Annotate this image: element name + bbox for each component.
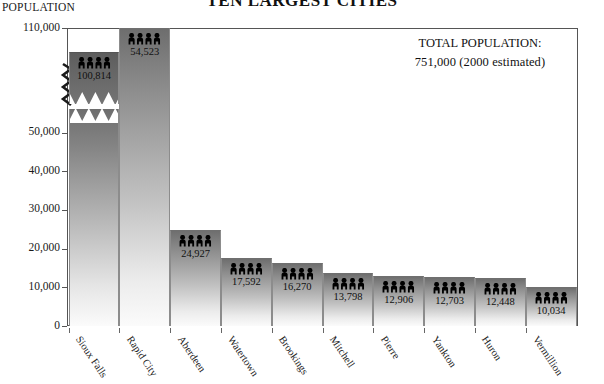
y-axis-tick-mark [62, 28, 67, 29]
people-icon [273, 268, 322, 280]
x-axis-label-huron: Huron [480, 334, 504, 362]
bar-huron[interactable]: 12,448 [475, 278, 526, 326]
people-icon [70, 57, 119, 69]
people-icon [374, 281, 423, 293]
chart-title: TEN LARGEST CITIES [0, 0, 604, 11]
y-axis-tick-mark [62, 133, 67, 134]
people-icon [120, 33, 169, 45]
x-axis-tick-mark [373, 328, 374, 333]
bar-sioux-falls[interactable] [69, 109, 120, 327]
people-icon [425, 282, 474, 294]
x-axis-tick-mark [526, 328, 527, 333]
x-axis-label-aberdeen: Aberdeen [175, 334, 207, 374]
x-axis-label-rapid-city: Rapid City [125, 334, 160, 378]
y-axis-tick-label: 50,000 [0, 125, 60, 137]
y-axis-tick-label: 110,000 [0, 21, 60, 33]
axis-break-zigzag-icon [69, 109, 120, 121]
callout-line-2: 751,000 (2000 estimated) [374, 53, 586, 72]
axis-break-zigzag-icon [69, 92, 120, 104]
chart-root: TEN LARGEST CITIES POPULATION 110,00050,… [0, 0, 604, 384]
bar-value-label: 17,592 [222, 276, 271, 287]
x-axis-tick-mark [119, 328, 120, 333]
x-axis-label-layer: Sioux FallsRapid CityAberdeenWatertownBr… [69, 328, 577, 384]
bar-mitchell[interactable]: 13,798 [323, 273, 374, 326]
x-axis-tick-mark [424, 328, 425, 333]
bar-value-label: 13,798 [324, 291, 373, 302]
bar-rapid-city[interactable]: 54,523 [119, 28, 170, 326]
people-icon [171, 235, 220, 247]
bar-value-label: 12,703 [425, 295, 474, 306]
callout-line-1: TOTAL POPULATION: [374, 34, 586, 53]
bar-pierre[interactable]: 12,906 [373, 276, 424, 326]
y-axis-tick-mark [62, 249, 67, 250]
bar-sioux-falls-top-segment[interactable]: 100,814 [69, 52, 120, 104]
y-axis-tick-mark [62, 171, 67, 172]
bar-value-label: 16,270 [273, 281, 322, 292]
x-axis-tick-mark [221, 328, 222, 333]
y-axis-tick-label: 0 [0, 319, 60, 331]
bar-value-label: 54,523 [120, 46, 169, 57]
bar-aberdeen[interactable]: 24,927 [170, 230, 221, 326]
total-population-callout: TOTAL POPULATION: 751,000 (2000 estimate… [374, 34, 586, 73]
people-icon [527, 292, 576, 304]
y-axis-tick-label: 40,000 [0, 164, 60, 176]
people-icon [476, 283, 525, 295]
x-axis-tick-mark [272, 328, 273, 333]
x-axis-label-sioux-falls: Sioux Falls [74, 334, 110, 380]
bar-value-label: 24,927 [171, 248, 220, 259]
bar-value-label: 12,906 [374, 294, 423, 305]
y-axis-tick-label: 10,000 [0, 280, 60, 292]
y-axis-tick-label: 30,000 [0, 202, 60, 214]
people-icon [324, 278, 373, 290]
x-axis-tick-mark [323, 328, 324, 333]
people-icon [222, 263, 271, 275]
y-axis-tick-mark [62, 287, 67, 288]
x-axis-label-vermillion: Vermillion [531, 334, 565, 377]
x-axis-tick-mark [170, 328, 171, 333]
y-axis-title: POPULATION [2, 1, 75, 13]
y-axis-tick-mark [62, 326, 67, 327]
y-axis-tick-label: 20,000 [0, 241, 60, 253]
y-axis-tick-mark [62, 210, 67, 211]
x-axis-label-brookings: Brookings [277, 334, 311, 376]
x-axis-label-pierre: Pierre [379, 334, 402, 361]
x-axis-tick-mark [69, 328, 70, 333]
bar-value-label: 100,814 [70, 70, 119, 81]
x-axis-label-mitchell: Mitchell [328, 334, 357, 370]
bar-vermillion[interactable]: 10,034 [526, 287, 577, 326]
bar-watertown[interactable]: 17,592 [221, 258, 272, 326]
bar-value-label: 10,034 [527, 305, 576, 316]
x-axis-label-watertown: Watertown [226, 334, 261, 378]
x-axis-label-yankton: Yankton [429, 334, 458, 369]
bar-brookings[interactable]: 16,270 [272, 263, 323, 326]
bar-yankton[interactable]: 12,703 [424, 277, 475, 326]
bar-value-label: 12,448 [476, 296, 525, 307]
x-axis-tick-mark [475, 328, 476, 333]
